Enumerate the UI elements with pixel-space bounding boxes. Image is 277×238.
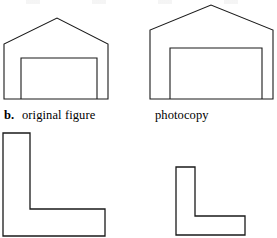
figure-part-label: b. (4, 107, 14, 123)
figure-panel: b. original figure photocopy (0, 0, 277, 238)
house-outline-photocopy (150, 5, 273, 99)
l-shape-photocopy (176, 167, 245, 235)
l-shape-original (3, 133, 105, 236)
caption-row: b. original figure photocopy (0, 106, 277, 126)
caption-photocopy: photocopy (155, 107, 209, 123)
caption-original-figure: original figure (22, 107, 95, 123)
